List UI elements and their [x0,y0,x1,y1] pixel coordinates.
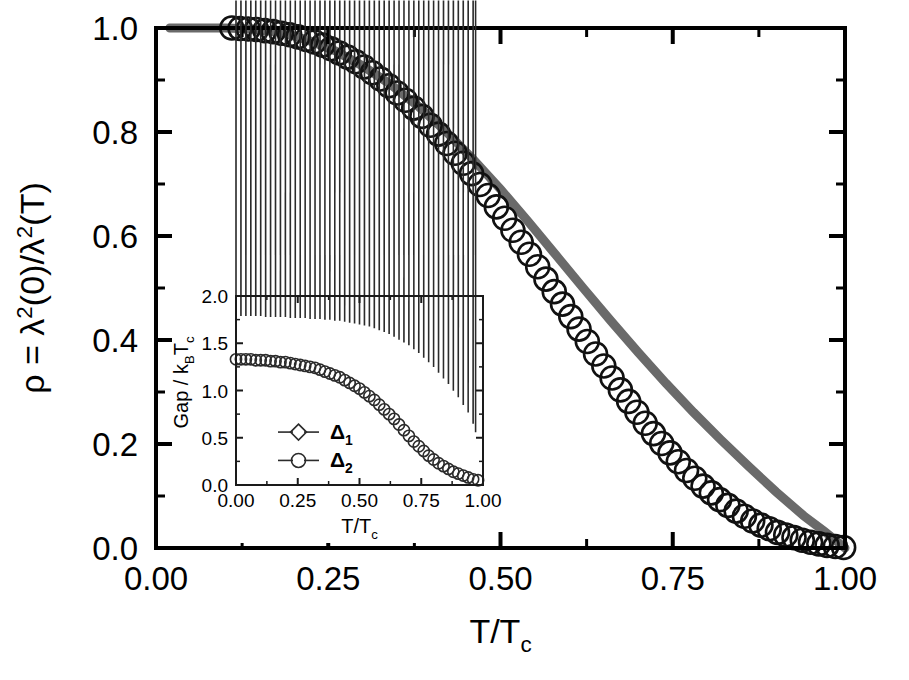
y-axis-title-text: ρ = λ2(0)/λ2(T) [12,182,51,393]
inset-y-tick-label: 1.0 [202,381,228,402]
main-x-axis-title: T/Tc [469,612,531,657]
figure-canvas: 0.000.250.500.751.000.00.20.40.60.81.0T/… [0,0,909,680]
inset-y-title-t: T [170,343,192,355]
inset-y-title-c: c [182,336,197,343]
x-tick-label: 1.00 [813,560,877,597]
y-title-tee: (T) [13,182,51,225]
y-tick-label: 0.6 [92,218,138,255]
inset-x-title-main: T/T [341,515,371,537]
legend-label-delta: Δ [330,448,345,471]
inset-y-tick-label: 1.5 [202,333,228,354]
x-axis-title-sub: c [520,632,531,657]
y-tick-label: 0.8 [92,114,138,151]
y-tick-label: 0.2 [92,426,138,463]
x-tick-label: 0.50 [468,560,532,597]
legend-label-sub: 1 [345,432,353,448]
legend-marker-circle [292,453,306,467]
legend-label-delta: Δ [330,420,345,443]
y-title-lambda1: λ [13,319,51,336]
inset-y-tick-label: 0.5 [202,428,228,449]
y-title-rho: ρ [13,374,51,393]
x-tick-label: 0.75 [641,560,705,597]
y-title-sup1: 2 [12,306,37,318]
plot-svg: 0.000.250.500.751.000.00.20.40.60.81.0T/… [0,0,909,680]
inset-x-tick-label: 0.75 [403,490,440,511]
inset-x-title-sub: c [371,527,378,542]
y-title-equals: = [13,336,51,375]
y-title-lambda2: λ [13,238,51,255]
x-axis-title-text: T/Tc [469,612,531,657]
inset-x-tick-label: 0.50 [341,490,378,511]
inset-y-tick-label: 2.0 [202,286,228,307]
inset-y-title-b: B [182,355,197,364]
inset-x-tick-label: 1.00 [465,490,502,511]
inset-y-title-gap: Gap / k [170,363,192,428]
y-tick-label: 0.0 [92,530,138,567]
y-title-sup2: 2 [12,226,37,238]
x-tick-label: 0.25 [296,560,360,597]
inset-x-tick-label: 0.25 [279,490,316,511]
y-title-zero: (0)/ [13,255,51,307]
inset-y-tick-label: 0.0 [202,475,228,496]
legend-label-sub: 2 [345,460,353,476]
main-y-axis-title: ρ = λ2(0)/λ2(T) [12,182,51,393]
y-tick-label: 0.4 [92,322,138,359]
x-axis-title-main: T/T [469,612,520,650]
y-tick-label: 1.0 [92,10,138,47]
